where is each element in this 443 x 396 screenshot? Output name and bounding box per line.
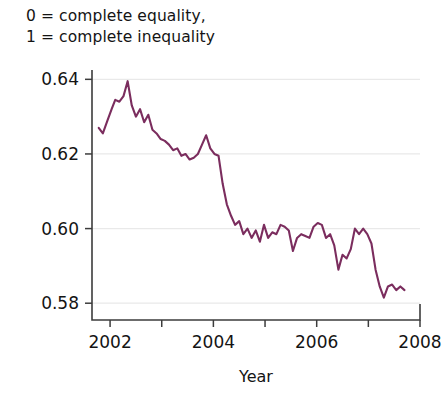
x-axis-ticks [110,320,420,327]
gini-data-line [99,81,405,297]
y-axis-ticks [85,79,92,303]
line-chart-plot: 0.580.600.620.64 2002200420062008 Year [0,0,443,396]
svg-text:2008: 2008 [398,332,441,352]
chart-figure: 0 = complete equality, 1 = complete ineq… [0,0,443,396]
svg-text:2004: 2004 [192,332,235,352]
y-axis-tick-labels: 0.580.600.620.64 [41,69,79,313]
svg-text:0.64: 0.64 [41,69,79,89]
axis-frame [92,70,420,320]
svg-text:0.58: 0.58 [41,293,79,313]
svg-text:0.60: 0.60 [41,219,79,239]
x-axis-tick-labels: 2002200420062008 [88,332,441,352]
svg-text:0.62: 0.62 [41,144,79,164]
x-axis-title: Year [238,367,273,386]
svg-text:2006: 2006 [295,332,338,352]
svg-text:2002: 2002 [88,332,131,352]
